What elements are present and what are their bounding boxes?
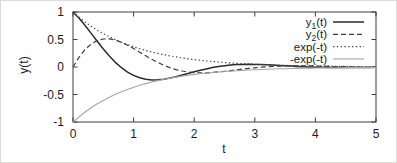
- y-axis-label: y(t): [17, 44, 31, 86]
- series-y1(t): [73, 12, 376, 80]
- x-axis-label: t: [174, 142, 274, 156]
- y-tick-label: -0.5: [43, 88, 64, 102]
- y-tick-label: 0.5: [47, 33, 64, 47]
- x-tick-label: 1: [130, 127, 137, 141]
- plot-figure: 01234510.50-0.5-1y1(t)y2(t)exp(-t)-exp(-…: [0, 0, 397, 163]
- legend-label: exp(-t): [294, 41, 327, 53]
- x-tick-label: 5: [373, 127, 380, 141]
- legend-label: -exp(-t): [290, 53, 327, 65]
- y-tick-label: -1: [53, 115, 64, 129]
- series-exp(-t): [73, 12, 376, 67]
- y-tick-label: 1: [57, 5, 64, 19]
- plot-canvas: 01234510.50-0.5-1y1(t)y2(t)exp(-t)-exp(-…: [1, 1, 397, 163]
- x-tick-label: 4: [312, 127, 319, 141]
- x-tick-label: 2: [191, 127, 198, 141]
- series--exp(-t): [73, 67, 376, 122]
- x-tick-label: 3: [251, 127, 258, 141]
- y-tick-label: 0: [57, 60, 64, 74]
- x-tick-label: 0: [70, 127, 77, 141]
